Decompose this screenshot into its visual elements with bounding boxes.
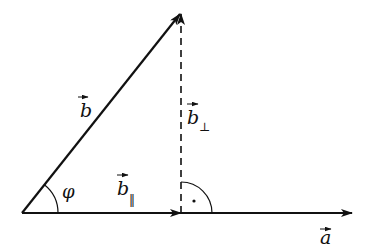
- label-b-parallel: b ‖: [117, 175, 135, 207]
- svg-text:a: a: [320, 226, 331, 248]
- label-b-perp: b ⊥: [187, 104, 210, 134]
- label-a: a: [320, 226, 331, 248]
- svg-text:b: b: [80, 99, 92, 121]
- svg-text:⊥: ⊥: [199, 120, 210, 134]
- label-b: b: [78, 97, 92, 121]
- right-angle-dot: [192, 199, 195, 202]
- angle-arc-phi: [44, 185, 58, 213]
- svg-text:‖: ‖: [129, 193, 135, 207]
- svg-text:b: b: [187, 106, 199, 128]
- svg-text:b: b: [117, 177, 129, 199]
- vector-diagram: b b ⊥ b ‖ a φ: [0, 0, 370, 251]
- right-angle-arc: [181, 182, 212, 213]
- vector-b-line: [22, 14, 180, 213]
- label-phi: φ: [62, 181, 75, 202]
